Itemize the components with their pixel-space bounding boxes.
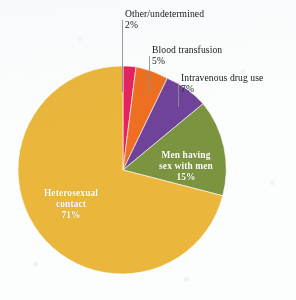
pie-label-men-having-sex-with-men: Men having sex with men 15% [148, 150, 224, 183]
pie-label-blood-transfusion: Blood transfusion 5% [152, 44, 222, 67]
pie-label-other-undetermined: Other/undetermined 2% [125, 8, 204, 31]
pie-label-heterosexual-contact: Heterosexual contact 71% [28, 188, 114, 221]
pie-label-men-having-sex-with-men-percent: 15% [148, 172, 224, 183]
pie-label-men-having-sex-with-men-line2: sex with men [148, 161, 224, 172]
pie-label-intravenous-drug-use: Intravenous drug use 7% [181, 72, 263, 95]
pie-label-intravenous-drug-use-name: Intravenous drug use [181, 72, 263, 83]
pie-chart-figure: Other/undetermined 2% Blood transfusion … [0, 0, 296, 300]
pie-label-heterosexual-contact-line2: contact [28, 199, 114, 210]
pie-label-other-undetermined-percent: 2% [125, 19, 204, 30]
pie-label-men-having-sex-with-men-line1: Men having [148, 150, 224, 161]
pie-label-heterosexual-contact-line1: Heterosexual [28, 188, 114, 199]
pie-label-blood-transfusion-percent: 5% [152, 55, 222, 66]
pie-label-intravenous-drug-use-percent: 7% [181, 83, 263, 94]
pie-label-blood-transfusion-name: Blood transfusion [152, 44, 222, 55]
pie-label-other-undetermined-name: Other/undetermined [125, 8, 204, 19]
pie-label-heterosexual-contact-percent: 71% [28, 210, 114, 221]
